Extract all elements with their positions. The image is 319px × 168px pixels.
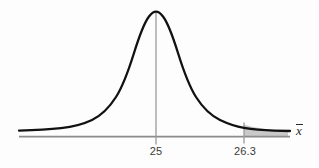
x-bar-axis-label: x <box>296 124 303 136</box>
x-axis-tick-label-critical-value: 26.3 <box>228 145 262 157</box>
x-axis-tick-label-mean: 25 <box>140 145 172 157</box>
x-bar-symbol: x <box>296 125 303 136</box>
normal-distribution-figure: 25 26.3 x <box>0 0 319 168</box>
distribution-plot <box>0 0 319 168</box>
normal-density-curve <box>19 12 290 131</box>
